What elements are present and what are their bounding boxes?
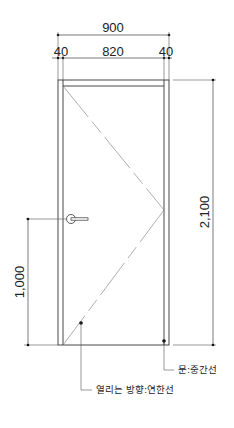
overall-width-value: 900 — [102, 20, 124, 35]
door-handle-icon — [67, 215, 89, 224]
jamb-dimension-row: 40 820 40 — [52, 44, 173, 80]
door-frame — [58, 80, 169, 345]
height-dimension: 2,100 — [173, 79, 216, 347]
door-line-leader: 문:중간선 — [162, 339, 217, 375]
right-jamb-value: 40 — [159, 44, 173, 59]
clear-width-value: 820 — [102, 44, 124, 59]
door-line-label: 문:중간선 — [178, 364, 217, 375]
left-jamb-value: 40 — [54, 44, 68, 59]
height-value: 2,100 — [197, 196, 212, 229]
swing-lines — [63, 86, 164, 345]
opening-direction-leader: 열리는 방향:연한선 — [79, 321, 174, 395]
handle-height-value: 1,000 — [12, 266, 27, 299]
opening-direction-label: 열리는 방향:연한선 — [96, 384, 174, 395]
door-elevation-drawing: 900 40 820 40 2,100 — [0, 0, 234, 428]
